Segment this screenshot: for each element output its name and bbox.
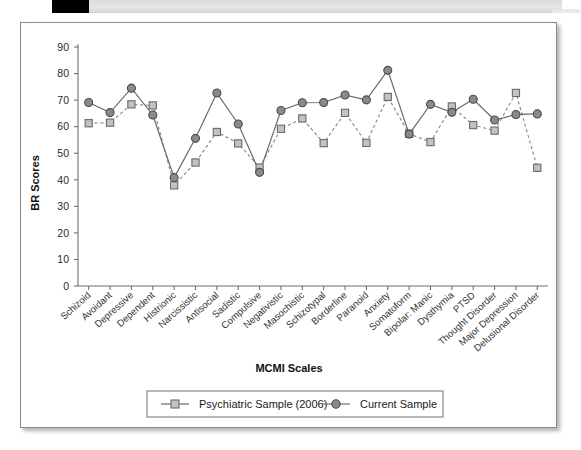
data-point-marker-square <box>363 139 370 146</box>
data-point-marker-circle <box>106 109 114 117</box>
y-axis-tick-label: 50 <box>57 147 69 159</box>
data-point-marker-circle <box>298 99 306 107</box>
x-axis-category-labels: SchizoidAvoidantDepressiveDependentHistr… <box>58 289 542 354</box>
data-point-marker-square <box>320 140 327 147</box>
line-chart-svg: BR Scores 0102030405060708090 SchizoidAv… <box>21 23 558 429</box>
y-axis-tick-label: 80 <box>57 67 69 79</box>
data-point-marker-circle <box>149 111 157 119</box>
legend-items: Psychiatric Sample (2006)Current Sample <box>161 398 437 410</box>
data-point-marker-circle <box>341 91 349 99</box>
chart-plot-area: BR Scores 0102030405060708090 SchizoidAv… <box>21 23 558 429</box>
y-axis-tick-label: 10 <box>57 253 69 265</box>
data-point-marker-square <box>341 109 348 116</box>
figure-frame: BR Scores 0102030405060708090 SchizoidAv… <box>20 22 557 428</box>
data-point-marker-square <box>427 138 434 145</box>
y-axis-title: BR Scores <box>29 155 41 211</box>
data-point-marker-circle <box>170 174 178 182</box>
data-point-marker-circle <box>427 100 435 108</box>
y-axis-tick-labels: 0102030405060708090 <box>57 41 69 292</box>
series-markers-group <box>85 66 542 189</box>
data-point-marker-square <box>491 127 498 134</box>
data-point-marker-square <box>85 120 92 127</box>
data-point-marker-circle <box>256 168 264 176</box>
data-point-marker-circle <box>234 120 242 128</box>
data-point-marker-circle <box>405 130 413 138</box>
y-axis-tick-label: 90 <box>57 41 69 53</box>
data-point-marker-square <box>235 140 242 147</box>
y-axis-tick-label: 0 <box>63 280 69 292</box>
x-axis-title: MCMI Scales <box>255 362 322 374</box>
data-point-marker-square <box>106 119 113 126</box>
data-point-marker-circle <box>320 99 328 107</box>
y-axis-tick-label: 20 <box>57 227 69 239</box>
header-gray-tail <box>552 9 580 13</box>
data-point-marker-circle <box>512 110 520 118</box>
data-point-marker-circle <box>192 134 200 142</box>
data-point-marker-square <box>299 115 306 122</box>
x-axis-tick-marks <box>89 286 538 290</box>
header-black-block <box>52 0 89 13</box>
data-point-marker-circle <box>362 96 370 104</box>
header-gray-block <box>89 0 562 13</box>
legend-marker-circle <box>332 400 340 408</box>
data-point-marker-circle <box>491 116 499 124</box>
y-axis-tick-label: 60 <box>57 120 69 132</box>
page-header-strip <box>0 0 581 16</box>
chart-legend: Psychiatric Sample (2006)Current Sample <box>147 391 443 417</box>
data-point-marker-circle <box>469 95 477 103</box>
legend-label-2: Current Sample <box>360 398 437 410</box>
legend-marker-square <box>171 400 179 408</box>
data-point-marker-square <box>470 121 477 128</box>
y-axis-tick-label: 40 <box>57 174 69 186</box>
y-axis-tick-label: 70 <box>57 94 69 106</box>
data-point-marker-square <box>384 93 391 100</box>
data-point-marker-square <box>213 128 220 135</box>
data-point-marker-circle <box>277 106 285 114</box>
data-point-marker-circle <box>127 84 135 92</box>
legend-label-1: Psychiatric Sample (2006) <box>199 398 327 410</box>
data-point-marker-square <box>149 102 156 109</box>
data-point-marker-circle <box>213 89 221 97</box>
data-point-marker-square <box>534 164 541 171</box>
data-point-marker-square <box>512 89 519 96</box>
data-point-marker-square <box>192 159 199 166</box>
data-point-marker-square <box>277 125 284 132</box>
data-point-marker-square <box>128 101 135 108</box>
data-point-marker-circle <box>85 99 93 107</box>
data-point-marker-circle <box>533 110 541 118</box>
y-axis-tick-marks <box>74 47 78 286</box>
data-point-marker-circle <box>448 108 456 116</box>
y-axis-tick-label: 30 <box>57 200 69 212</box>
data-point-marker-square <box>171 182 178 189</box>
data-point-marker-circle <box>384 66 392 74</box>
